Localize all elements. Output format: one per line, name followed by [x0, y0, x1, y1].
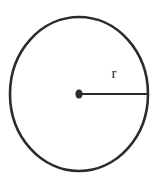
- circle-diagram: r: [0, 0, 160, 181]
- center-point-dot: [75, 89, 82, 98]
- radius-label: r: [104, 66, 124, 81]
- circle-diagram-svg: [0, 0, 160, 181]
